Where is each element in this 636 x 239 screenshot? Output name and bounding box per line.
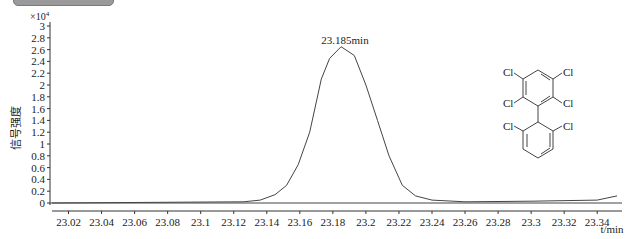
y-tick-label: 2 xyxy=(40,79,46,91)
x-tick-label: 23.32 xyxy=(552,216,577,228)
y-tick-label: 0 xyxy=(40,197,46,209)
y-tick-label: 1.8 xyxy=(31,91,45,103)
y-tick-label: 3 xyxy=(40,20,46,32)
x-tick-label: 23.18 xyxy=(320,216,345,228)
x-tick-label: 23.1 xyxy=(191,216,210,228)
y-tick-label: 2.4 xyxy=(31,55,45,67)
x-tick-label: 23.2 xyxy=(356,216,375,228)
y-tick-label: 1.6 xyxy=(31,103,45,115)
x-tick-label: 23.22 xyxy=(387,216,412,228)
y-tick-label: 2.6 xyxy=(31,44,45,56)
y-tick-label: 2.2 xyxy=(31,67,45,79)
y-tick-label: 0.8 xyxy=(31,150,45,162)
y-axis-label: 信号强度 xyxy=(9,106,22,150)
x-tick-label: 23.12 xyxy=(221,216,246,228)
chromatogram-trace xyxy=(52,47,617,203)
pcb-structure-icon xyxy=(514,70,562,158)
x-tick-label: 23.26 xyxy=(453,216,478,228)
x-axis-label: t/min xyxy=(600,223,624,235)
x-tick-label: 23.06 xyxy=(122,216,147,228)
cl-label: Cl xyxy=(563,120,573,132)
y-tick-label: 1 xyxy=(40,138,46,150)
x-tick-label: 23.04 xyxy=(89,216,114,228)
y-tick-label: 0.6 xyxy=(31,162,45,174)
x-tick-label: 23.02 xyxy=(56,216,81,228)
chromatogram-chart: 信号强度 ×104 00.20.40.60.811.21.41.61.822.2… xyxy=(0,0,636,239)
x-tick-label: 23.28 xyxy=(486,216,511,228)
x-ticks: 23.0223.0423.0623.0823.123.1223.1423.162… xyxy=(56,211,610,228)
y-tick-label: 0.2 xyxy=(31,185,45,197)
x-tick-label: 23.14 xyxy=(254,216,279,228)
y-tick-label: 2.8 xyxy=(31,32,45,44)
y-tick-label: 1.4 xyxy=(31,114,45,126)
x-tick-label: 23.24 xyxy=(420,216,445,228)
x-tick-label: 23.08 xyxy=(155,216,180,228)
peak-annotation: 23.185min xyxy=(321,34,369,46)
cl-label: Cl xyxy=(503,97,513,109)
y-ticks: 00.20.40.60.811.21.41.61.822.22.42.62.83 xyxy=(31,20,50,209)
cl-label: Cl xyxy=(503,66,513,78)
cl-label: Cl xyxy=(563,97,573,109)
cl-label: Cl xyxy=(563,66,573,78)
cl-label: Cl xyxy=(503,120,513,132)
y-tick-label: 0.4 xyxy=(31,173,45,185)
x-tick-label: 23.3 xyxy=(522,216,542,228)
x-tick-label: 23.16 xyxy=(287,216,312,228)
y-tick-label: 1.2 xyxy=(31,126,45,138)
